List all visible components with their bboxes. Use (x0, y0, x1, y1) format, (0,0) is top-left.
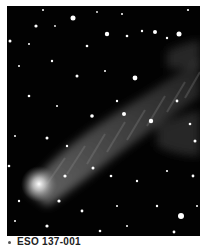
galaxy-image-graphic (7, 6, 200, 236)
astronomy-image (7, 6, 200, 236)
galaxy-core (21, 166, 57, 202)
caption-text: ESO 137-001 (17, 236, 81, 245)
image-caption: ESO 137-001 (8, 237, 81, 245)
bullet-icon (8, 241, 11, 244)
